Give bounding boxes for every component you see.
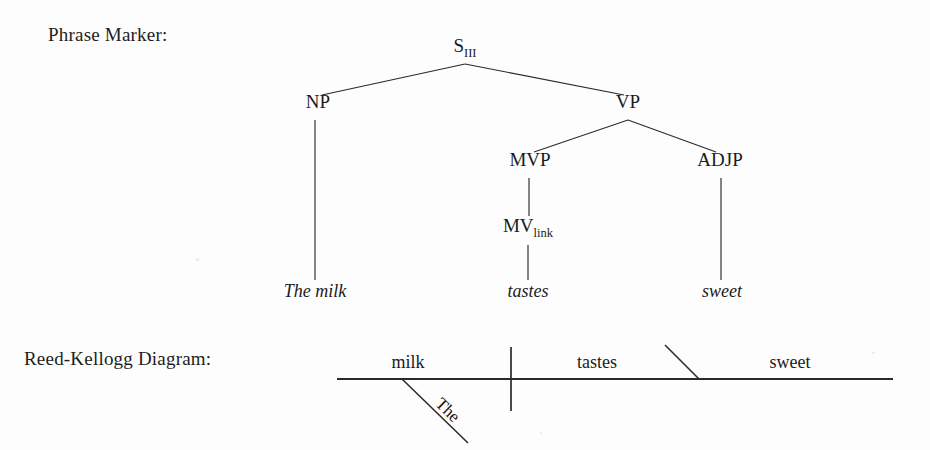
- phrase-marker-tree: SIII NP VP MVP ADJP MVlink The milk tast…: [284, 35, 743, 301]
- rk-complement-slant: [665, 345, 699, 379]
- node-np: NP: [306, 91, 330, 112]
- node-mv-link: MVlink: [503, 215, 554, 240]
- rk-verb-tastes: tastes: [577, 352, 617, 372]
- branch-vp-to-adjp: [628, 120, 716, 152]
- figure-page: Phrase Marker: Reed-Kellogg Diagram: SII…: [0, 0, 930, 450]
- terminal-the-milk: The milk: [284, 281, 348, 301]
- terminal-tastes: tastes: [507, 281, 548, 301]
- terminal-sweet: sweet: [702, 281, 743, 301]
- branch-s-to-vp: [465, 64, 624, 95]
- rk-complement-sweet: sweet: [770, 352, 811, 372]
- branch-s-to-np: [322, 64, 465, 95]
- syntax-diagram: SIII NP VP MVP ADJP MVlink The milk tast…: [0, 0, 930, 450]
- rk-modifier-the: The: [432, 394, 464, 426]
- node-mvp: MVP: [509, 149, 550, 170]
- node-vp: VP: [616, 91, 640, 112]
- rk-subject-milk: milk: [391, 352, 424, 372]
- node-adjp: ADJP: [697, 149, 742, 170]
- branch-vp-to-mvp: [534, 120, 628, 152]
- scan-speck: [872, 352, 875, 354]
- scan-speck: [540, 432, 542, 434]
- reed-kellogg-diagram: milk tastes sweet The: [337, 345, 893, 443]
- scan-speck: [196, 258, 199, 261]
- node-s: SIII: [453, 35, 476, 60]
